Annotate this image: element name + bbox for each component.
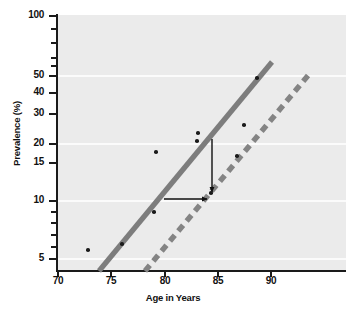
y-tick-100 bbox=[49, 15, 57, 17]
chart-figure: 100 50 40 30 20 15 10 5 70 75 80 85 90 A… bbox=[0, 0, 346, 318]
plot-area bbox=[57, 15, 346, 271]
y-tick-7 bbox=[51, 234, 57, 236]
y-tick-60 bbox=[51, 65, 57, 67]
data-point bbox=[152, 210, 156, 214]
y-tick-20 bbox=[49, 143, 57, 145]
data-point bbox=[255, 76, 259, 80]
y-tick-8 bbox=[51, 222, 57, 224]
y-tick-10 bbox=[49, 200, 57, 202]
x-tick-label-70: 70 bbox=[38, 276, 78, 286]
x-axis-line bbox=[56, 270, 346, 272]
x-axis-title: Age in Years bbox=[0, 292, 346, 303]
x-tick-label-75: 75 bbox=[91, 276, 131, 286]
y-tick-70 bbox=[51, 57, 57, 59]
y-tick-80 bbox=[51, 42, 57, 44]
y-tick-label-10: 10 bbox=[4, 195, 44, 205]
y-tick-90 bbox=[51, 28, 57, 30]
y-tick-15 bbox=[49, 162, 57, 164]
y-tick-label-100: 100 bbox=[4, 10, 44, 20]
y-tick-label-5: 5 bbox=[4, 253, 44, 263]
data-point bbox=[242, 123, 246, 127]
gridline-20 bbox=[57, 143, 346, 145]
gridline-10 bbox=[57, 200, 346, 202]
x-tick-label-80: 80 bbox=[145, 276, 185, 286]
data-point bbox=[120, 242, 124, 246]
data-point bbox=[209, 191, 213, 195]
data-point bbox=[235, 154, 239, 158]
y-axis-title: Prevalence (%) bbox=[11, 74, 22, 194]
y-tick-30 bbox=[49, 113, 57, 115]
x-tick-label-85: 85 bbox=[198, 276, 238, 286]
data-point bbox=[196, 131, 200, 135]
y-tick-5 bbox=[49, 258, 57, 260]
data-point bbox=[195, 139, 199, 143]
gridline-5 bbox=[57, 258, 346, 260]
y-tick-9 bbox=[51, 211, 57, 213]
data-point bbox=[154, 150, 158, 154]
y-tick-40 bbox=[49, 92, 57, 94]
x-tick-label-90: 90 bbox=[251, 276, 291, 286]
y-tick-50 bbox=[49, 75, 57, 77]
gridline-50 bbox=[57, 75, 346, 77]
data-point bbox=[86, 248, 90, 252]
y-tick-6 bbox=[51, 246, 57, 248]
